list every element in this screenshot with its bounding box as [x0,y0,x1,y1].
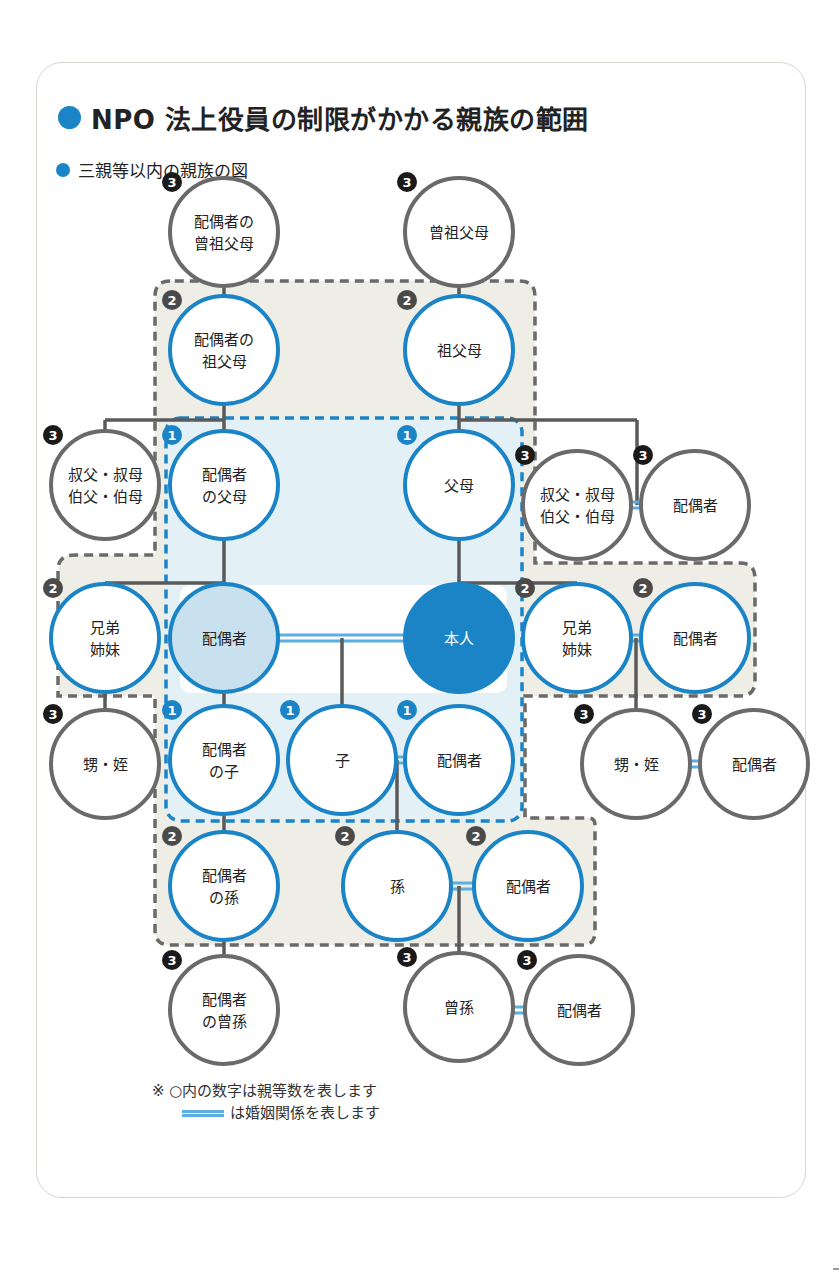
node-label: 兄弟 [90,619,120,637]
svg-text:2: 2 [167,829,176,844]
svg-text:3: 3 [48,428,57,443]
legend-marriage-row: は婚姻関係を表します [152,1102,380,1124]
degree-badge-icon: 3 [633,445,653,465]
node-great-grandchild-spouse: 配偶者3 [517,950,633,1064]
node-great-grandchild: 曾孫3 [397,947,513,1061]
node-nephew-niece-right-spouse: 配偶者3 [692,704,808,818]
node-label: 叔父・叔母 [540,486,615,504]
node-label: 曾孫 [444,999,474,1017]
degree-badge-icon: 3 [397,947,417,967]
node-nephew-niece-right: 甥・姪3 [574,704,690,818]
node-label: 姉妹 [90,641,120,659]
node-label: の孫 [209,889,239,907]
node-nephew-niece-left: 甥・姪3 [43,704,159,818]
node-label: 配偶者 [202,991,247,1009]
degree-badge-icon: 2 [43,578,63,598]
node-label: 配偶者 [506,878,551,896]
node-spouse-great-grandparents: 配偶者の曾祖父母3 [162,172,278,286]
degree-badge-icon: 2 [515,578,535,598]
svg-text:1: 1 [285,703,294,718]
node-label: 祖父母 [202,353,247,371]
svg-text:3: 3 [520,448,529,463]
svg-text:3: 3 [402,950,411,965]
node-label: 甥・姪 [83,756,128,774]
node-label: 配偶者の [194,213,254,231]
degree-badge-icon: 1 [162,425,182,445]
degree-badge-icon: 3 [517,950,537,970]
svg-text:2: 2 [520,581,529,596]
node-label: 姉妹 [562,641,592,659]
degree-badge-icon: 3 [515,445,535,465]
node-label: 曾祖父母 [429,224,489,242]
svg-text:1: 1 [167,428,176,443]
node-label: 本人 [444,630,474,648]
svg-text:1: 1 [402,703,411,718]
node-label: 孫 [390,878,405,896]
svg-text:1: 1 [402,428,411,443]
node-spouse-great-grandchild: 配偶者の曾孫3 [162,950,278,1064]
svg-text:3: 3 [402,175,411,190]
node-label: 配偶者 [732,756,777,774]
degree-badge-icon: 2 [162,826,182,846]
svg-text:3: 3 [48,707,57,722]
degree-badge-icon: 3 [162,950,182,970]
node-spouse: 配偶者 [170,584,278,692]
node-label: 配偶者 [202,867,247,885]
node-label: 配偶者 [202,630,247,648]
node-great-grandparents: 曾祖父母3 [397,172,513,286]
degree-badge-icon: 2 [633,578,653,598]
svg-text:2: 2 [471,829,480,844]
svg-text:3: 3 [638,448,647,463]
legend: ※ ○内の数字は親等数を表します は婚姻関係を表します [152,1080,380,1124]
node-uncle-aunt-left: 叔父・叔母伯父・伯母3 [43,425,159,539]
page-edge-mark [833,1268,839,1270]
legend-degree-note: ※ ○内の数字は親等数を表します [152,1080,380,1102]
degree-badge-icon: 3 [43,425,63,445]
node-label: 配偶者 [437,752,482,770]
node-label: 配偶者 [673,630,718,648]
node-label: 父母 [444,477,474,495]
node-uncle-aunt-right-spouse: 配偶者3 [633,445,749,559]
degree-badge-icon: 2 [466,826,486,846]
node-label: 曾祖父母 [194,235,254,253]
node-label: の子 [209,763,239,781]
svg-text:3: 3 [167,175,176,190]
node-label: 兄弟 [562,619,592,637]
svg-text:2: 2 [167,293,176,308]
node-label: の父母 [202,488,247,506]
degree-badge-icon: 1 [397,700,417,720]
svg-text:2: 2 [402,293,411,308]
node-label: 配偶者 [557,1002,602,1020]
svg-text:2: 2 [340,829,349,844]
kinship-diagram: 配偶者の曾祖父母3曾祖父母3配偶者の祖父母2祖父母2叔父・叔母伯父・伯母3配偶者… [0,0,839,1281]
svg-text:3: 3 [522,953,531,968]
node-label: 叔父・叔母 [68,466,143,484]
node-label: 配偶者 [673,497,718,515]
node-label: 伯父・伯母 [540,508,615,526]
svg-text:1: 1 [167,703,176,718]
svg-text:3: 3 [579,707,588,722]
node-label: 子 [335,752,350,770]
node-label: 配偶者 [202,741,247,759]
node-label: の曾孫 [202,1013,247,1031]
node-label: 伯父・伯母 [68,488,143,506]
degree-badge-icon: 2 [397,290,417,310]
node-label: 甥・姪 [614,756,659,774]
degree-badge-icon: 2 [335,826,355,846]
svg-text:3: 3 [167,953,176,968]
node-self: 本人 [405,584,513,692]
degree-badge-icon: 3 [692,704,712,724]
legend-marriage-note: は婚姻関係を表します [230,1102,380,1124]
degree-badge-icon: 3 [43,704,63,724]
degree-badge-icon: 3 [574,704,594,724]
degree-badge-icon: 1 [397,425,417,445]
degree-badge-icon: 3 [162,172,182,192]
svg-text:2: 2 [48,581,57,596]
node-label: 配偶者 [202,466,247,484]
degree-badge-icon: 1 [280,700,300,720]
degree-badge-icon: 1 [162,700,182,720]
node-label: 配偶者の [194,331,254,349]
svg-text:3: 3 [697,707,706,722]
node-label: 祖父母 [437,342,482,360]
degree-badge-icon: 2 [162,290,182,310]
